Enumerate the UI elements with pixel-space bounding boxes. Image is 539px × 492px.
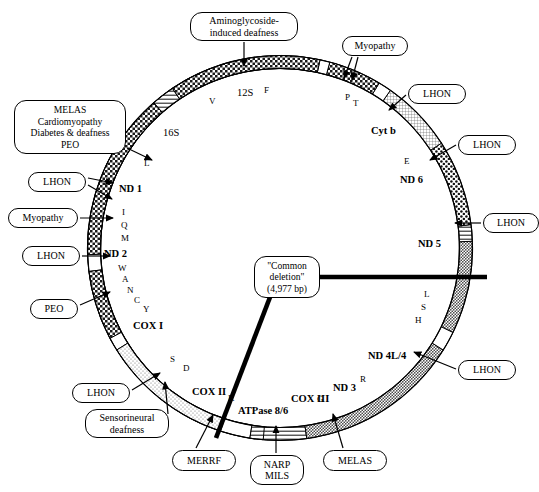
trna-label-h: H [415,316,422,325]
callout-melas-group-line: PEO [61,139,79,151]
gene-label-nd1: ND 1 [119,184,142,195]
trna-label-c: C [134,296,140,305]
callout-lhon-nd5-line: LHON [497,217,525,229]
callout-sensorineural-line: deafness [110,424,144,436]
trna-label-l-leu-cun: L [424,290,430,299]
callout-melas-group[interactable]: MELASCardiomyopathyDiabetes & deafnessPE… [14,100,126,154]
trna-label-t: T [353,99,359,108]
trna-label-a: A [122,275,129,284]
callout-merrf[interactable]: MERRF [172,450,236,471]
callout-lhon-cox1[interactable]: LHON [72,383,130,403]
callout-lhon-nd1-line: LHON [43,176,71,188]
callout-lhon-nd5[interactable]: LHON [483,213,539,233]
callout-common-deletion-line: deletion" [270,271,305,283]
gene-label-cox2: COX II [192,387,226,398]
trna-label-y: Y [143,305,150,314]
trna-label-f: F [264,86,269,95]
callout-myopathy-right[interactable]: Myopathy [342,36,408,56]
callout-narp-mils-line: NARP [264,459,291,471]
callout-aminoglycoside[interactable]: Aminoglycoside-induced deafness [190,12,298,41]
gene-label-nd6: ND 6 [400,175,423,186]
trna-label-l-leu-uur: L [144,159,150,168]
callout-lhon-cytb-line: LHON [423,88,451,100]
callout-melas-group-line: MELAS [54,104,87,116]
callout-myopathy-left[interactable]: Myopathy [8,208,78,228]
callout-lhon-nd6[interactable]: LHON [458,135,516,155]
gene-label-nd4l4: ND 4L/4 [368,351,406,362]
gene-label-nd2: ND 2 [104,249,127,260]
callout-merrf-line: MERRF [187,455,221,467]
callout-lhon-cox1-line: LHON [87,387,115,399]
trna-label-w: W [118,264,127,273]
trna-label-k: K [228,394,235,403]
callout-melas-bottom[interactable]: MELAS [323,450,387,471]
callout-peo[interactable]: PEO [30,299,78,319]
callout-lhon-cytb[interactable]: LHON [408,84,466,104]
callout-narp-mils-line: MILS [265,470,289,482]
trna-label-i: I [122,208,125,217]
gene-label-nd5: ND 5 [418,239,441,250]
callout-melas-group-line: Diabetes & deafness [31,127,110,139]
callout-lhon-nd2[interactable]: LHON [22,246,80,266]
gene-label-nd3: ND 3 [333,383,356,394]
callout-common-deletion[interactable]: "Commondeletion"(4,977 bp) [254,256,320,298]
ring-segment-cox2 [441,241,472,332]
callout-lhon-nd1[interactable]: LHON [28,172,86,192]
callout-lhon-nd4[interactable]: LHON [458,360,516,380]
callout-narp-mils[interactable]: NARPMILS [250,455,304,485]
gene-label-cox1: COX I [133,321,163,332]
gene-label-12s: 12S [237,88,253,99]
trna-label-p: P [345,93,350,102]
trna-label-e: E [404,157,410,166]
callout-sensorineural[interactable]: Sensorineuraldeafness [85,409,169,438]
callout-lhon-nd2-line: LHON [37,250,65,262]
callout-lhon-nd6-line: LHON [473,139,501,151]
trna-label-r: R [360,375,366,384]
gene-label-16s: 16S [163,128,179,139]
ring-segment-trna-e [88,254,102,271]
callout-aminoglycoside-line: Aminoglycoside- [209,15,278,27]
trna-label-d: D [183,364,190,373]
trna-label-v: V [209,97,216,106]
callout-myopathy-left-line: Myopathy [22,212,63,224]
ring-inner-edge [101,69,460,428]
callout-common-deletion-line: "Common [267,260,307,272]
trna-label-g: G [317,395,324,404]
trna-label-s-ser-ucn: S [170,355,175,364]
callout-aminoglycoside-line: induced deafness [210,27,279,39]
callout-lhon-nd4-line: LHON [473,364,501,376]
ring-segment-trna-k [458,225,472,242]
callout-melas-bottom-line: MELAS [338,455,372,467]
trna-label-q: Q [121,221,128,230]
callout-common-deletion-line: (4,977 bp) [267,283,307,295]
callout-melas-group-line: Cardiomyopathy [38,116,102,128]
callout-peo-line: PEO [45,303,64,315]
callout-myopathy-right-line: Myopathy [354,40,395,52]
callout-sensorineural-line: Sensorineural [100,412,155,424]
trna-label-m: M [121,234,129,243]
trna-label-s-ser-agy: S [421,303,426,312]
gene-label-cytb: Cyt b [371,126,396,137]
trna-label-n: N [127,286,134,295]
gene-label-atpase86: ATPase 8/6 [238,406,288,417]
ring-segment-trna-p [250,425,264,439]
